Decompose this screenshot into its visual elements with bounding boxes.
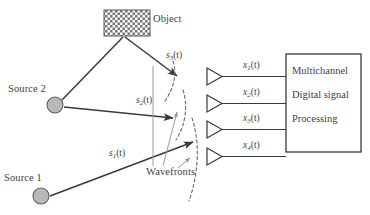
source1-marker xyxy=(33,188,49,204)
processing-line-2: Digital signal xyxy=(292,89,349,100)
sensor-triangle-2 xyxy=(207,95,222,112)
signal-label-s2: s2(t) xyxy=(136,95,152,107)
object-label: Object xyxy=(153,14,182,25)
processing-line-1: Multichannel xyxy=(292,65,348,76)
sensor-triangle-1 xyxy=(207,68,222,85)
wavefront-arc-2 xyxy=(176,90,186,140)
wavefront-arc-3 xyxy=(189,118,197,201)
figure-canvas: Object Source 2 Source 1 Wavefronts s3(t… xyxy=(0,0,370,215)
wavefront-arc-1 xyxy=(165,61,175,101)
ray-source2-to-object xyxy=(62,37,123,100)
source1-label: Source 1 xyxy=(4,173,42,184)
sensor-triangles xyxy=(207,68,222,165)
leader-to-arc-2 xyxy=(163,112,177,166)
ray-source2-s2 xyxy=(64,107,173,118)
wavefronts-label: Wavefronts xyxy=(146,167,195,178)
processing-line-3: Processing xyxy=(292,113,338,124)
wavefront-arcs xyxy=(165,61,197,201)
signal-label-x4: x4(t) xyxy=(243,140,260,152)
source2-label: Source 2 xyxy=(8,84,46,95)
diagram-vector-layer xyxy=(0,0,370,215)
signal-label-x3: x3(t) xyxy=(243,113,260,125)
object-shape xyxy=(104,10,150,36)
signal-label-x2: x2(t) xyxy=(243,87,260,99)
signal-label-s1: s1(t) xyxy=(109,148,125,160)
sensor-triangle-3 xyxy=(207,121,222,138)
signal-label-s3: s3(t) xyxy=(166,50,182,62)
source2-marker xyxy=(47,97,63,113)
sensor-triangle-4 xyxy=(207,148,222,165)
signal-label-x1: x1(t) xyxy=(243,60,260,72)
